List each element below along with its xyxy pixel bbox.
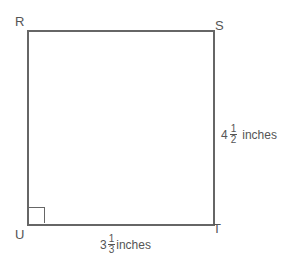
- rectangle-rstu: [27, 30, 215, 226]
- side-st-denominator: 2: [231, 135, 237, 145]
- side-ut-fraction: 1 3: [108, 234, 116, 255]
- side-ut-measurement: 3 1 3 inches: [100, 234, 151, 255]
- side-ut-unit: inches: [116, 238, 151, 252]
- side-st-measurement: 4 1 2 inches: [221, 124, 277, 145]
- vertex-label-t: T: [213, 222, 221, 235]
- side-st-whole: 4: [221, 128, 228, 142]
- right-angle-marker: [29, 207, 45, 223]
- side-st-unit: inches: [242, 128, 277, 142]
- side-st-fraction: 1 2: [230, 124, 238, 145]
- vertex-label-r: R: [15, 15, 24, 28]
- side-ut-whole: 3: [100, 238, 107, 252]
- vertex-label-s: S: [215, 19, 224, 32]
- side-ut-denominator: 3: [109, 245, 115, 255]
- vertex-label-u: U: [15, 228, 24, 241]
